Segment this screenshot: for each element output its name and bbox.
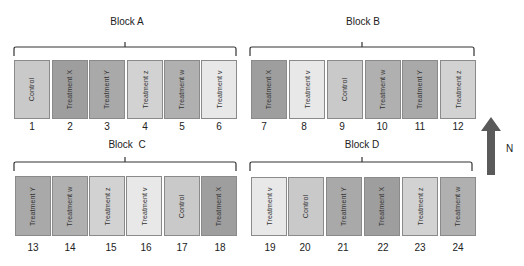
bracket	[248, 42, 480, 58]
plot-2: Treatment X	[52, 60, 88, 119]
plot-number: 17	[167, 242, 197, 253]
plot-treatment: Treatment v	[266, 187, 273, 225]
plot-number: 3	[92, 121, 122, 132]
plot-13: Treatment Y	[15, 176, 51, 236]
plot-treatment: Treatment w	[179, 70, 186, 110]
plot-number: 1	[17, 121, 47, 132]
plot-treatment: Treatment Y	[341, 187, 348, 226]
plot-treatment: Control	[178, 194, 185, 217]
plot-17: Control	[164, 176, 200, 236]
bracket	[248, 157, 480, 173]
block-label: Block D	[345, 139, 379, 150]
plot-treatment: Treatment z	[104, 187, 111, 225]
north-arrow-shape	[481, 117, 501, 175]
plot-15: Treatment z	[89, 176, 125, 236]
plot-number: 2	[55, 121, 85, 132]
plot-treatment: Treatment v	[216, 70, 223, 108]
plot-treatment: Treatment X	[379, 187, 386, 226]
plot-number: 24	[443, 242, 473, 253]
plot-number: 6	[204, 121, 234, 132]
plot-number: 7	[249, 121, 279, 132]
plot-22: Treatment X	[364, 177, 400, 236]
plot-number: 10	[367, 121, 397, 132]
plot-number: 18	[205, 242, 235, 253]
plot-number: 23	[405, 242, 435, 253]
plot-treatment: Treatment v	[141, 187, 148, 225]
plot-treatment: Treatment Y	[417, 70, 424, 109]
block-label: Block A	[110, 16, 143, 27]
plot-number: 4	[130, 121, 160, 132]
plot-20: Control	[288, 177, 324, 236]
plot-24: Treatment w	[440, 177, 476, 236]
plot-4: Treatment z	[127, 60, 163, 119]
plot-19: Treatment v	[251, 177, 287, 236]
plot-6: Treatment v	[201, 60, 237, 119]
plot-treatment: Treatment Y	[104, 70, 111, 109]
plot-treatment: Treatment v	[304, 70, 311, 108]
plot-treatment: Treatment X	[67, 70, 74, 109]
north-arrow-icon	[480, 115, 502, 177]
plot-number: 15	[96, 242, 126, 253]
plot-treatment: Treatment w	[455, 187, 462, 227]
plot-1: Control	[14, 60, 50, 119]
plot-number: 8	[289, 121, 319, 132]
plot-16: Treatment v	[126, 176, 162, 236]
plot-23: Treatment z	[402, 177, 438, 236]
plot-treatment: Treatment w	[380, 70, 387, 110]
plot-treatment: Control	[28, 78, 35, 101]
plot-treatment: Treatment X	[216, 186, 223, 225]
plot-treatment: Treatment z	[417, 187, 424, 225]
plot-11: Treatment Y	[402, 60, 438, 119]
plot-number: 9	[327, 121, 357, 132]
plot-number: 5	[167, 121, 197, 132]
plot-number: 19	[255, 242, 285, 253]
plot-treatment: Treatment Y	[30, 186, 37, 225]
plot-10: Treatment w	[365, 60, 401, 119]
plot-12: Treatment z	[440, 60, 476, 119]
plot-3: Treatment Y	[89, 60, 125, 119]
plot-21: Treatment Y	[326, 177, 362, 236]
plot-number: 12	[443, 121, 473, 132]
block-label: Block B	[346, 16, 380, 27]
plot-treatment: Treatment w	[67, 186, 74, 226]
plot-number: 20	[290, 242, 320, 253]
plot-treatment: Treatment X	[266, 70, 273, 109]
block-label: Block C	[108, 139, 145, 150]
plot-treatment: Treatment z	[142, 70, 149, 108]
plot-9: Control	[327, 60, 363, 119]
plot-18: Treatment X	[201, 176, 237, 236]
plot-number: 21	[328, 242, 358, 253]
plot-treatment: Treatment z	[455, 70, 462, 108]
plot-number: 14	[55, 242, 85, 253]
plot-treatment: Control	[302, 195, 309, 218]
plot-5: Treatment w	[164, 60, 200, 119]
plot-7: Treatment X	[251, 60, 287, 119]
north-label: N	[506, 143, 513, 154]
plot-number: 22	[368, 242, 398, 253]
plot-number: 11	[405, 121, 435, 132]
bracket	[12, 42, 242, 58]
plot-number: 13	[18, 242, 48, 253]
plot-number: 16	[131, 242, 161, 253]
plot-14: Treatment w	[52, 176, 88, 236]
plot-treatment: Control	[341, 78, 348, 101]
plot-8: Treatment v	[289, 60, 325, 119]
bracket	[12, 157, 242, 173]
